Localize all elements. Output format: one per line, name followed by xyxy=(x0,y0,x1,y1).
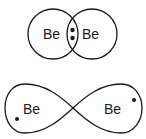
left-atom-label: Be xyxy=(43,26,60,42)
be2-orbital-diagram: Be Be Be Be xyxy=(0,0,146,139)
diagram-svg: Be Be Be Be xyxy=(0,0,146,139)
electron-dot xyxy=(15,117,19,121)
shared-electron-dot xyxy=(70,28,74,32)
figure-eight-diagram: Be Be xyxy=(5,84,142,133)
shared-electron-dot xyxy=(70,36,74,40)
overlapping-circles-diagram: Be Be xyxy=(28,9,117,59)
right-atom-label: Be xyxy=(82,26,99,42)
left-atom-label: Be xyxy=(23,101,40,117)
right-atom-label: Be xyxy=(104,101,121,117)
electron-dot xyxy=(132,98,136,102)
